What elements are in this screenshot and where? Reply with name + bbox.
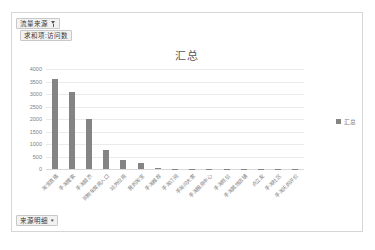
pivot-field-detail-label: 来源明细 [20, 216, 48, 225]
pivot-field-measure-label: 求和项:访问数 [24, 31, 68, 40]
bar[interactable] [103, 150, 109, 170]
x-label-slot: 手淘推荐 [149, 171, 166, 227]
x-label-slot: 手淘其他店铺 [235, 171, 252, 227]
bar-slot [166, 69, 183, 169]
pivot-field-source-filter[interactable]: 流量来源 [16, 18, 60, 29]
x-label-slot: 手淘天的评价 [287, 171, 304, 227]
bar-slot [98, 69, 115, 169]
x-label-slot: 手淘订阅 [166, 171, 183, 227]
bar[interactable] [86, 119, 92, 169]
y-axis-tick-label: 2000 [30, 116, 42, 122]
y-axis-tick-label: 0 [39, 166, 42, 172]
bar-slot [184, 69, 201, 169]
bar-slot [235, 69, 252, 169]
x-label-slot: 站外应用 [115, 171, 132, 227]
chart-legend: 汇总 [336, 117, 356, 126]
chart-title: 汇总 [12, 47, 362, 63]
bar[interactable] [120, 160, 126, 169]
bar-slot [252, 69, 269, 169]
pivot-field-source-label: 流量来源 [20, 19, 48, 28]
bar-slot [115, 69, 132, 169]
x-label-slot: 手淘搜索 [63, 171, 80, 227]
x-axis-tick-label: 点立友 [250, 173, 265, 188]
y-axis-tick-label: 2500 [30, 104, 42, 110]
y-axis-tick-label: 1000 [30, 141, 42, 147]
plot-wrapper: 40003500300025002000150010005000 [22, 69, 352, 169]
pivot-chart-frame: 流量来源 求和项:访问数 来源明细 ▾ 汇总 40003500300025002… [11, 12, 363, 232]
bar-slot [287, 69, 304, 169]
x-axis-tick-label: 淘宝直播 [40, 173, 58, 191]
bar-slot [149, 69, 166, 169]
bar-slot [46, 69, 63, 169]
bar-slot [218, 69, 235, 169]
funnel-icon [51, 21, 56, 27]
y-axis-tick-label: 1500 [30, 129, 42, 135]
bar-series [46, 69, 304, 169]
x-label-slot: 购物车常用入口 [98, 171, 115, 227]
plot-area [46, 69, 304, 169]
y-axis-tick-label: 500 [33, 154, 42, 160]
legend-label: 汇总 [344, 117, 356, 126]
bar[interactable] [52, 79, 58, 169]
y-axis-tick-label: 3000 [30, 91, 42, 97]
bar-slot [132, 69, 149, 169]
x-label-slot: 手淘问大家 [184, 171, 201, 227]
x-label-slot: 手淘旺信 [218, 171, 235, 227]
bar[interactable] [69, 92, 75, 170]
bar-slot [270, 69, 287, 169]
x-label-slot: 手淘服务中心 [201, 171, 218, 227]
bar-slot [63, 69, 80, 169]
y-axis-tick-label: 4000 [30, 66, 42, 72]
bar[interactable] [138, 163, 144, 169]
x-label-slot: 点立友 [252, 171, 269, 227]
y-axis: 40003500300025002000150010005000 [22, 69, 44, 169]
bar[interactable] [155, 168, 161, 169]
x-label-slot: 淘宝直播 [46, 171, 63, 227]
bar-slot [201, 69, 218, 169]
bar[interactable] [172, 169, 178, 170]
legend-swatch-icon [336, 119, 341, 124]
x-label-slot: 我的淘宝 [132, 171, 149, 227]
x-axis-line [46, 169, 304, 170]
pivot-field-measure[interactable]: 求和项:访问数 [20, 30, 72, 41]
x-axis-labels: 淘宝直播手淘搜索手淘首页购物车常用入口站外应用我的淘宝手淘推荐手淘订阅手淘问大家… [46, 171, 304, 227]
x-label-slot: 手淘社区 [270, 171, 287, 227]
bar-slot [80, 69, 97, 169]
y-axis-tick-label: 3500 [30, 79, 42, 85]
